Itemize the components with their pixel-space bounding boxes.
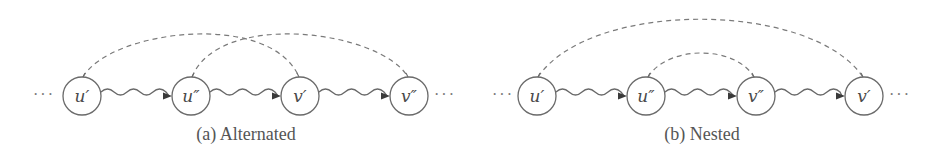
dashed-arc-outer-u1-v1 [538,19,863,77]
node-label: u′ [75,86,90,106]
wavy-edge-v2-v1 [775,89,842,96]
figure: u′ u″ v′ v″ ··· ··· (a) Alternated [0,0,941,157]
dashed-arc-u1-v1 [83,34,299,77]
wavy-edge-u2-v1 [210,89,278,96]
wavy-edge-u1-u2 [556,89,624,96]
node-u-double-prime: u″ [627,77,665,115]
caption-b: (b) Nested [664,124,739,145]
node-label: v′ [857,86,871,106]
wavy-edge-u2-v2 [665,89,734,96]
node-u-prime: u′ [518,77,556,115]
arrow-head-icon [728,93,737,100]
panel-b-nested: u′ u″ v″ v′ ··· ··· (b) Nested [492,19,911,145]
node-label: u″ [637,86,655,106]
leading-ellipsis: ··· [492,86,514,103]
node-label: u″ [182,86,200,106]
node-label: v′ [293,86,307,106]
node-u-prime: u′ [63,77,101,115]
dashed-arc-u2-v2 [192,34,408,77]
dashed-arc-inner-u2-v2 [648,53,754,77]
trailing-ellipsis: ··· [889,86,911,103]
node-label: v″ [401,86,418,106]
node-label: v″ [748,86,765,106]
node-u-double-prime: u″ [172,77,210,115]
node-v-double-prime: v″ [390,77,428,115]
node-v-double-prime: v″ [737,77,775,115]
node-v-prime: v′ [281,77,319,115]
panel-a-alternated: u′ u″ v′ v″ ··· ··· (a) Alternated [33,34,456,145]
wavy-edge-u1-u2 [101,89,169,96]
leading-ellipsis: ··· [33,86,55,103]
wavy-edge-v1-v2 [319,89,387,96]
node-v-prime: v′ [845,77,883,115]
node-label: u′ [530,86,545,106]
trailing-ellipsis: ··· [434,86,456,103]
caption-a: (a) Alternated [196,124,295,145]
